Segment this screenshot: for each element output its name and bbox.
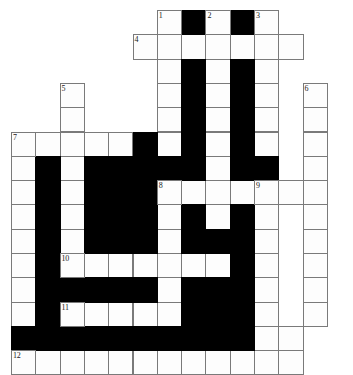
crossword-letter-cell[interactable]	[60, 180, 85, 205]
crossword-letter-cell[interactable]	[157, 132, 182, 157]
crossword-block-cell	[181, 59, 206, 84]
crossword-letter-cell[interactable]	[254, 229, 279, 254]
crossword-letter-cell[interactable]	[254, 253, 279, 278]
crossword-letter-cell[interactable]	[181, 34, 206, 59]
crossword-letter-cell[interactable]	[230, 180, 255, 205]
crossword-letter-cell[interactable]	[11, 204, 36, 229]
crossword-letter-cell[interactable]	[278, 180, 303, 205]
crossword-letter-cell[interactable]	[303, 277, 328, 302]
crossword-letter-cell[interactable]	[303, 132, 328, 157]
crossword-letter-cell[interactable]	[205, 83, 230, 108]
crossword-letter-cell[interactable]	[205, 156, 230, 181]
crossword-letter-cell[interactable]	[254, 326, 279, 351]
crossword-letter-cell[interactable]	[254, 277, 279, 302]
crossword-letter-cell[interactable]	[254, 59, 279, 84]
crossword-letter-cell[interactable]	[84, 132, 109, 157]
crossword-letter-cell[interactable]	[157, 83, 182, 108]
crossword-letter-cell[interactable]	[181, 350, 206, 375]
crossword-letter-cell[interactable]	[303, 253, 328, 278]
crossword-letter-cell[interactable]: 4	[133, 34, 158, 59]
crossword-letter-cell[interactable]: 1	[157, 10, 182, 35]
crossword-letter-cell[interactable]	[303, 156, 328, 181]
crossword-letter-cell[interactable]	[157, 302, 182, 327]
crossword-letter-cell[interactable]	[11, 156, 36, 181]
crossword-letter-cell[interactable]	[230, 34, 255, 59]
crossword-letter-cell[interactable]	[230, 350, 255, 375]
crossword-letter-cell[interactable]	[11, 229, 36, 254]
crossword-letter-cell[interactable]	[108, 302, 133, 327]
crossword-letter-cell[interactable]	[205, 107, 230, 132]
crossword-letter-cell[interactable]	[157, 59, 182, 84]
crossword-block-cell	[181, 302, 206, 327]
crossword-letter-cell[interactable]	[11, 277, 36, 302]
crossword-letter-cell[interactable]	[11, 180, 36, 205]
crossword-letter-cell[interactable]: 8	[157, 180, 182, 205]
crossword-block-cell	[35, 302, 60, 327]
crossword-letter-cell[interactable]	[157, 204, 182, 229]
crossword-letter-cell[interactable]	[157, 350, 182, 375]
crossword-letter-cell[interactable]	[157, 34, 182, 59]
crossword-letter-cell[interactable]: 11	[60, 302, 85, 327]
crossword-letter-cell[interactable]: 2	[205, 10, 230, 35]
crossword-block-cell	[133, 326, 158, 351]
crossword-letter-cell[interactable]	[35, 132, 60, 157]
clue-number-11: 11	[62, 303, 69, 312]
crossword-letter-cell[interactable]: 6	[303, 83, 328, 108]
crossword-letter-cell[interactable]	[133, 302, 158, 327]
crossword-letter-cell[interactable]	[254, 350, 279, 375]
crossword-letter-cell[interactable]	[157, 229, 182, 254]
crossword-letter-cell[interactable]	[108, 350, 133, 375]
crossword-letter-cell[interactable]	[278, 34, 303, 59]
crossword-letter-cell[interactable]	[205, 59, 230, 84]
crossword-letter-cell[interactable]: 7	[11, 132, 36, 157]
crossword-block-cell	[157, 156, 182, 181]
crossword-letter-cell[interactable]	[60, 229, 85, 254]
crossword-letter-cell[interactable]	[278, 350, 303, 375]
crossword-letter-cell[interactable]	[181, 253, 206, 278]
crossword-letter-cell[interactable]	[303, 302, 328, 327]
crossword-letter-cell[interactable]	[205, 132, 230, 157]
crossword-letter-cell[interactable]	[254, 107, 279, 132]
crossword-letter-cell[interactable]	[84, 302, 109, 327]
crossword-letter-cell[interactable]	[157, 277, 182, 302]
crossword-letter-cell[interactable]	[303, 180, 328, 205]
crossword-letter-cell[interactable]	[60, 204, 85, 229]
crossword-letter-cell[interactable]	[11, 253, 36, 278]
crossword-letter-cell[interactable]	[254, 132, 279, 157]
crossword-letter-cell[interactable]	[108, 132, 133, 157]
crossword-letter-cell[interactable]: 10	[60, 253, 85, 278]
crossword-letter-cell[interactable]: 9	[254, 180, 279, 205]
crossword-letter-cell[interactable]	[181, 180, 206, 205]
crossword-letter-cell[interactable]: 12	[11, 350, 36, 375]
crossword-letter-cell[interactable]	[11, 302, 36, 327]
crossword-letter-cell[interactable]	[133, 253, 158, 278]
crossword-letter-cell[interactable]	[205, 253, 230, 278]
crossword-letter-cell[interactable]	[60, 156, 85, 181]
crossword-block-cell	[230, 156, 255, 181]
crossword-letter-cell[interactable]	[35, 350, 60, 375]
crossword-letter-cell[interactable]	[205, 350, 230, 375]
crossword-letter-cell[interactable]: 3	[254, 10, 279, 35]
crossword-letter-cell[interactable]	[60, 132, 85, 157]
crossword-letter-cell[interactable]	[84, 253, 109, 278]
crossword-letter-cell[interactable]	[254, 302, 279, 327]
crossword-letter-cell[interactable]	[254, 83, 279, 108]
crossword-letter-cell[interactable]	[303, 204, 328, 229]
crossword-letter-cell[interactable]	[205, 180, 230, 205]
crossword-letter-cell[interactable]	[133, 350, 158, 375]
crossword-block-cell	[35, 156, 60, 181]
crossword-letter-cell[interactable]	[254, 34, 279, 59]
crossword-letter-cell[interactable]	[84, 350, 109, 375]
crossword-letter-cell[interactable]	[205, 34, 230, 59]
crossword-letter-cell[interactable]: 5	[60, 83, 85, 108]
crossword-letter-cell[interactable]	[303, 107, 328, 132]
crossword-letter-cell[interactable]	[205, 204, 230, 229]
crossword-letter-cell[interactable]	[60, 350, 85, 375]
crossword-letter-cell[interactable]	[254, 204, 279, 229]
crossword-letter-cell[interactable]	[157, 107, 182, 132]
crossword-letter-cell[interactable]	[278, 326, 303, 351]
crossword-letter-cell[interactable]	[108, 253, 133, 278]
crossword-letter-cell[interactable]	[303, 229, 328, 254]
crossword-letter-cell[interactable]	[60, 107, 85, 132]
crossword-letter-cell[interactable]	[157, 253, 182, 278]
